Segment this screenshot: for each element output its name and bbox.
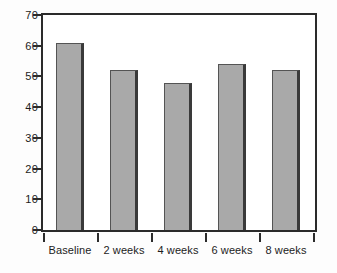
- bar-chart-figure: 010203040506070 Baseline2 weeks4 weeks6 …: [0, 0, 337, 273]
- y-axis-tick-mark: [33, 229, 41, 231]
- x-axis-tick-mark: [205, 233, 207, 242]
- bar: [164, 83, 192, 230]
- bar-group: [259, 15, 313, 230]
- x-axis-tick-label: 8 weeks: [251, 244, 321, 256]
- x-axis-tick-mark: [97, 233, 99, 242]
- y-axis-tick-mark: [33, 198, 41, 200]
- bar: [56, 43, 84, 230]
- bar: [272, 70, 300, 230]
- bar-group: [205, 15, 259, 230]
- y-axis-tick-mark: [33, 45, 41, 47]
- bar: [110, 70, 138, 230]
- y-axis-tick-mark: [33, 168, 41, 170]
- bar-group: [151, 15, 205, 230]
- bar-group: [43, 15, 97, 230]
- bar-group: [97, 15, 151, 230]
- bar: [218, 64, 246, 230]
- bars-layer: [43, 15, 315, 230]
- y-axis-tick-mark: [33, 137, 41, 139]
- x-axis-tick-mark: [259, 233, 261, 242]
- x-axis-tick-mark: [313, 233, 315, 242]
- x-axis-tick-mark: [151, 233, 153, 242]
- y-axis-tick-mark: [33, 75, 41, 77]
- y-axis-tick-mark: [33, 106, 41, 108]
- x-axis-tick-mark: [43, 233, 45, 242]
- y-axis-tick-mark: [33, 14, 41, 16]
